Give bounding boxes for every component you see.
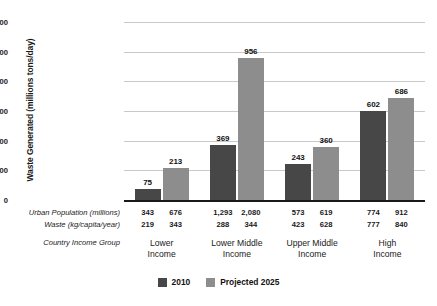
y-tick-label: 1,200 [0, 18, 8, 27]
x-axis-line [124, 200, 425, 202]
row-label-country-income-group: Country Income Group [0, 238, 120, 247]
gridline [124, 81, 425, 82]
waste-per-capita-cell: 343 [157, 220, 195, 229]
y-tick-label: 400 [0, 137, 8, 146]
waste-per-capita-cell: 344 [232, 220, 270, 229]
waste-generation-bar-chart: Waste Generated (millions tons/day) 0200… [0, 0, 437, 306]
chart-legend: 2010Projected 2025 [0, 277, 437, 287]
gridline [124, 52, 425, 53]
legend-label: Projected 2025 [220, 277, 279, 287]
bar-2010-upper-middle-income [285, 164, 311, 200]
y-axis-title: Waste Generated (millions tons/day) [25, 10, 35, 210]
bar-2010-lower-income [135, 189, 161, 200]
y-tick-label: 600 [0, 107, 8, 116]
waste-per-capita-cell: 628 [307, 220, 345, 229]
legend-item-2010[interactable]: 2010 [158, 277, 191, 287]
bar-projected-2025-upper-middle-income [313, 147, 339, 200]
bar-projected-2025-lower-income [163, 168, 189, 200]
category-label-line: Income [342, 249, 432, 260]
y-tick-label: 0 [0, 196, 8, 205]
category-label-high-income: HighIncome [342, 238, 432, 259]
bar-value-label: 956 [230, 47, 272, 56]
gridline [124, 22, 425, 23]
urban-population-cell: 619 [307, 208, 345, 217]
legend-swatch-icon [158, 278, 167, 287]
urban-population-cell: 676 [157, 208, 195, 217]
y-tick-label: 800 [0, 77, 8, 86]
bar-2010-high-income [360, 111, 386, 200]
urban-population-cell: 912 [382, 208, 420, 217]
bar-value-label: 686 [380, 87, 422, 96]
category-label-line: High [342, 238, 432, 249]
row-label-urban-population: Urban Population (millions) [0, 208, 120, 217]
y-tick-label: 200 [0, 166, 8, 175]
legend-item-projected-2025[interactable]: Projected 2025 [206, 277, 279, 287]
urban-population-cell: 2,080 [232, 208, 270, 217]
row-label-waste-per-capita: Waste (kg/capita/year) [0, 220, 120, 229]
bar-projected-2025-high-income [388, 98, 414, 200]
bar-projected-2025-lower-middle-income [238, 58, 264, 200]
bar-value-label: 213 [155, 157, 197, 166]
bar-value-label: 360 [305, 136, 347, 145]
bar-2010-lower-middle-income [210, 145, 236, 200]
legend-swatch-icon [206, 278, 215, 287]
y-tick-label: 1,000 [0, 48, 8, 57]
waste-per-capita-cell: 840 [382, 220, 420, 229]
legend-label: 2010 [172, 277, 191, 287]
